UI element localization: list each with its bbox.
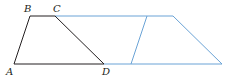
diagram-canvas: B C A D — [0, 0, 233, 76]
blue-right-slant — [173, 16, 222, 64]
label-b: B — [23, 3, 31, 14]
trapezoid-abcd — [14, 16, 104, 64]
blue-middle-slant — [131, 16, 147, 64]
label-d: D — [101, 66, 110, 76]
label-c: C — [53, 3, 61, 14]
label-a: A — [5, 66, 13, 76]
